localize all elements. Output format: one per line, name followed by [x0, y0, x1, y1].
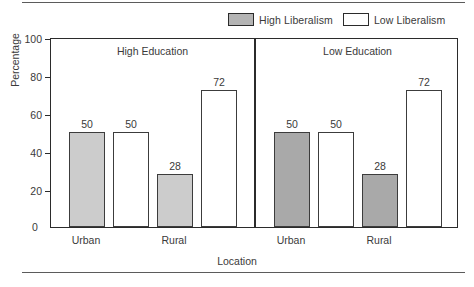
bar-left-urban-high[interactable]: [69, 132, 105, 227]
legend-swatch-high-liberalism: [228, 13, 254, 26]
bar-left-rural-low[interactable]: [201, 90, 237, 227]
bar-right-urban-high[interactable]: [274, 132, 310, 227]
y-tick-20: 20: [24, 191, 51, 192]
x-tick-label-left-urban: Urban: [56, 234, 116, 246]
legend-entry-low-liberalism: Low Liberalism: [343, 13, 445, 26]
legend-label-high-liberalism: High Liberalism: [259, 14, 333, 26]
x-axis-title: Location: [0, 255, 474, 267]
y-tick-label-80: 80: [30, 70, 42, 84]
legend-entry-high-liberalism: High Liberalism: [228, 13, 333, 26]
bar-value-right-rural-high: 28: [362, 160, 398, 172]
y-tick-label-40: 40: [30, 146, 42, 160]
y-tick-80: 80: [24, 77, 51, 78]
bottom-divider-rule: [22, 272, 465, 273]
panel-right-bars: 50 50 28 72: [256, 39, 459, 227]
bar-value-right-urban-high: 50: [274, 118, 310, 130]
bar-value-left-rural-low: 72: [201, 76, 237, 88]
top-divider-rule: [22, 2, 465, 3]
y-tick-100: 100: [24, 39, 51, 40]
bar-value-left-urban-high: 50: [69, 118, 105, 130]
x-tick-label-left-rural: Rural: [144, 234, 204, 246]
panel-left-bars: 50 50 28 72: [51, 39, 254, 227]
y-tick-label-0: 0: [32, 221, 38, 233]
panel-low-education: Low Education 50 50 28 72: [256, 39, 459, 227]
bar-value-right-urban-low: 50: [318, 118, 354, 130]
bar-left-urban-low[interactable]: [113, 132, 149, 227]
y-tick-label-20: 20: [30, 184, 42, 198]
x-tick-label-right-rural: Rural: [349, 234, 409, 246]
y-tick-label-60: 60: [30, 108, 42, 122]
panel-high-education: High Education 50 50 28 72: [51, 39, 254, 227]
bar-value-left-rural-high: 28: [157, 160, 193, 172]
x-tick-label-right-urban: Urban: [261, 234, 321, 246]
bar-right-rural-low[interactable]: [406, 90, 442, 227]
bar-value-left-urban-low: 50: [113, 118, 149, 130]
y-tick-60: 60: [24, 115, 51, 116]
bar-left-rural-high[interactable]: [157, 174, 193, 227]
bar-right-urban-low[interactable]: [318, 132, 354, 227]
legend-label-low-liberalism: Low Liberalism: [374, 14, 445, 26]
plot-area: 100 80 60 40 20 High Education 50 50 28: [50, 38, 458, 228]
chart-legend: High Liberalism Low Liberalism: [228, 13, 445, 26]
legend-swatch-low-liberalism: [343, 13, 369, 26]
y-tick-label-100: 100: [24, 32, 42, 46]
y-axis-title: Percentage: [9, 15, 21, 105]
bar-right-rural-high[interactable]: [362, 174, 398, 227]
bar-value-right-rural-low: 72: [406, 76, 442, 88]
y-tick-40: 40: [24, 153, 51, 154]
